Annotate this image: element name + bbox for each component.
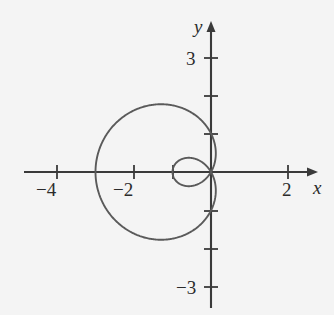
x-axis-arrowhead (307, 168, 318, 177)
x-tick-label--2: −2 (113, 180, 133, 199)
polar-graph-figure: −4 −2 2 3 −3 y x (0, 0, 334, 315)
plot-canvas (0, 0, 334, 315)
y-axis-label: y (194, 17, 202, 36)
x-tick-label--4: −4 (36, 180, 56, 199)
x-axis-label: x (313, 178, 321, 197)
y-tick-label-3: 3 (186, 49, 196, 68)
x-axis (24, 168, 318, 177)
x-tick-label-2: 2 (282, 180, 292, 199)
y-axis-arrowhead (207, 21, 216, 32)
y-tick-label--3: −3 (176, 278, 196, 297)
